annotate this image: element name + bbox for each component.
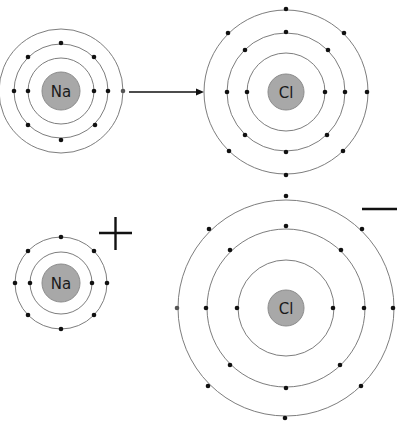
sodium-ion: Na — [13, 235, 110, 332]
cl-ion-symbol: Cl — [279, 300, 294, 318]
positive-charge-icon — [99, 217, 132, 250]
na-ion-symbol: Na — [51, 275, 71, 293]
sodium-atom: Na — [0, 29, 125, 153]
gained-electron — [175, 306, 180, 311]
chloride-ion: Cl — [175, 194, 396, 421]
na-symbol: Na — [51, 83, 71, 101]
transferred-electron — [121, 89, 126, 94]
arrowhead-icon — [196, 89, 204, 96]
cl-symbol: Cl — [279, 84, 294, 102]
chlorine-atom: Cl — [204, 7, 369, 178]
electron-transfer-arrow — [129, 89, 204, 96]
ionic-bond-diagram: Na Cl — [0, 0, 399, 423]
